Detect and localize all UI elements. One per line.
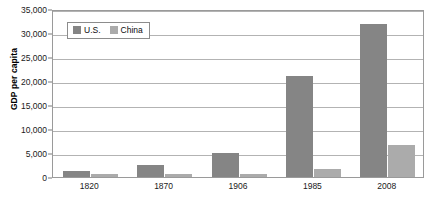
legend-item: U.S. — [73, 25, 101, 35]
legend-swatch-us-icon — [73, 26, 81, 34]
y-axis-tick-label: 20,000 — [21, 77, 47, 87]
y-axis-tick-labels: 05,00010,00015,00020,00025,00030,00035,0… — [0, 10, 52, 178]
bar-china-1820 — [91, 174, 118, 177]
y-axis-tick-label: 10,000 — [21, 125, 47, 135]
y-axis-tick-label: 25,000 — [21, 53, 47, 63]
bar-group — [286, 11, 341, 177]
bar-china-1985 — [314, 169, 341, 177]
y-axis-tick-label: 5,000 — [26, 149, 47, 159]
legend-item: China — [110, 25, 143, 35]
legend-swatch-china-icon — [110, 26, 118, 34]
bar-us-2008 — [360, 24, 387, 177]
legend-label: U.S. — [84, 25, 101, 35]
x-axis-tick-label: 1820 — [80, 181, 99, 191]
y-axis-tick-label: 0 — [42, 173, 47, 183]
y-axis-tick-label: 15,000 — [21, 101, 47, 111]
bar-china-1870 — [165, 174, 192, 177]
bar-us-1820 — [63, 171, 90, 177]
bar-group — [360, 11, 415, 177]
x-axis-tick-label: 1870 — [154, 181, 173, 191]
plot-area: U.S.China — [52, 10, 424, 178]
bar-us-1870 — [137, 165, 164, 177]
gdp-per-capita-bar-chart: GDP per capita 05,00010,00015,00020,0002… — [0, 0, 430, 211]
y-axis-tick-label: 30,000 — [21, 29, 47, 39]
legend-label: China — [121, 25, 143, 35]
bar-china-2008 — [388, 145, 415, 177]
bar-china-1906 — [240, 174, 267, 177]
x-axis-tick-labels: 18201870190619852008 — [52, 181, 424, 201]
bar-us-1906 — [212, 153, 239, 177]
bar-group — [212, 11, 267, 177]
chart-legend: U.S.China — [67, 22, 150, 39]
bar-us-1985 — [286, 76, 313, 177]
x-axis-tick-label: 1985 — [303, 181, 322, 191]
x-axis-tick-label: 1906 — [229, 181, 248, 191]
x-axis-tick-label: 2008 — [377, 181, 396, 191]
y-axis-tick-label: 35,000 — [21, 5, 47, 15]
